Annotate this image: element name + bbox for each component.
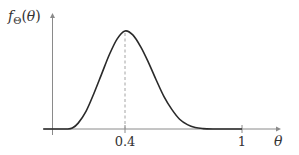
y-label-subscript: Θ bbox=[13, 15, 21, 26]
x-tick-label-0.4: 0.4 bbox=[115, 134, 136, 149]
x-tick-label-1: 1 bbox=[238, 134, 246, 149]
y-label-paren-close: ) bbox=[35, 8, 40, 24]
density-curve bbox=[43, 31, 242, 129]
density-chart: 0.41 fΘ(θ) θ bbox=[0, 0, 299, 155]
x-axis-label: θ bbox=[274, 133, 283, 149]
y-axis-label: fΘ(θ) bbox=[7, 8, 41, 26]
y-axis-arrowhead bbox=[50, 13, 55, 18]
x-axis-arrowhead bbox=[276, 127, 281, 132]
